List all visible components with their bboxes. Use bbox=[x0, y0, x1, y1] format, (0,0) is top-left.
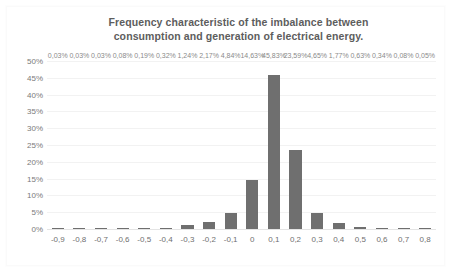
x-axis-tick-label: -0,5 bbox=[133, 235, 155, 244]
x-axis-tick-label: 0,2 bbox=[285, 235, 307, 244]
bar[interactable]: 4,65% bbox=[311, 213, 323, 229]
y-axis-tick-label: 45% bbox=[9, 73, 43, 82]
bar[interactable]: 0,63% bbox=[354, 227, 366, 229]
bar[interactable]: 0,03% bbox=[95, 228, 107, 229]
bar-data-label: 0,34% bbox=[372, 52, 392, 60]
bar-slot: 4,65% bbox=[306, 61, 328, 229]
bar-slot: 45,83% bbox=[263, 61, 285, 229]
bar-data-label: 0,08% bbox=[113, 52, 133, 60]
bar-slot: 0,08% bbox=[393, 61, 415, 229]
y-axis-tick-label: 40% bbox=[9, 90, 43, 99]
bar-data-label: 4,84% bbox=[221, 52, 241, 60]
y-axis-tick-label: 0% bbox=[9, 225, 43, 234]
x-axis-tick-label: -0,6 bbox=[112, 235, 134, 244]
bar[interactable]: 1,24% bbox=[181, 225, 193, 229]
bar-slot: 0,08% bbox=[112, 61, 134, 229]
x-axis-tick-label: 0,8 bbox=[414, 235, 436, 244]
bar-slot: 0,34% bbox=[371, 61, 393, 229]
x-axis-tick-label: -0,7 bbox=[90, 235, 112, 244]
x-axis: -0,9-0,8-0,7-0,6-0,5-0,4-0,3-0,2-0,100,1… bbox=[47, 235, 436, 244]
bar-slot: 0,03% bbox=[90, 61, 112, 229]
bar[interactable]: 45,83% bbox=[268, 75, 280, 229]
bar-data-label: 0,32% bbox=[156, 52, 176, 60]
x-axis-tick-label: -0,3 bbox=[177, 235, 199, 244]
bar-series: 0,03%0,03%0,03%0,08%0,19%0,32%1,24%2,17%… bbox=[47, 61, 436, 229]
x-axis-tick-label: 0,6 bbox=[371, 235, 393, 244]
bar-data-label: 0,63% bbox=[350, 52, 370, 60]
x-axis-tick-label: -0,1 bbox=[220, 235, 242, 244]
y-axis-tick-label: 25% bbox=[9, 141, 43, 150]
x-axis-tick-label: -0,9 bbox=[47, 235, 69, 244]
bar-data-label: 0,05% bbox=[415, 52, 435, 60]
bar-data-label: 23,59% bbox=[284, 52, 308, 60]
y-axis-tick-label: 15% bbox=[9, 174, 43, 183]
x-axis-tick-label: 0,4 bbox=[328, 235, 350, 244]
bar[interactable]: 0,19% bbox=[138, 228, 150, 229]
x-axis-tick-label: -0,8 bbox=[69, 235, 91, 244]
bar[interactable]: 2,17% bbox=[203, 222, 215, 229]
bar-data-label: 0,08% bbox=[394, 52, 414, 60]
bar-data-label: 4,65% bbox=[307, 52, 327, 60]
bar-slot: 14,63% bbox=[241, 61, 263, 229]
bar[interactable]: 14,63% bbox=[246, 180, 258, 229]
bar-data-label: 45,83% bbox=[262, 52, 286, 60]
bar-data-label: 0,19% bbox=[134, 52, 154, 60]
bar-slot: 4,84% bbox=[220, 61, 242, 229]
bar-data-label: 1,77% bbox=[329, 52, 349, 60]
bar[interactable]: 0,08% bbox=[117, 228, 129, 229]
y-axis-tick-label: 5% bbox=[9, 208, 43, 217]
bar-slot: 1,24% bbox=[177, 61, 199, 229]
bar[interactable]: 0,08% bbox=[398, 228, 410, 229]
bar[interactable]: 0,03% bbox=[52, 228, 64, 229]
bar-data-label: 1,24% bbox=[178, 52, 198, 60]
y-axis-tick-label: 20% bbox=[9, 157, 43, 166]
bar-data-label: 14,63% bbox=[240, 52, 264, 60]
bar-data-label: 0,03% bbox=[91, 52, 111, 60]
bar-slot: 0,03% bbox=[69, 61, 91, 229]
plot-wrapper: 0%5%10%15%20%25%30%35%40%45%50% 0,03%0,0… bbox=[7, 7, 444, 265]
gridline bbox=[47, 229, 436, 230]
bar-data-label: 2,17% bbox=[199, 52, 219, 60]
bar[interactable]: 4,84% bbox=[225, 213, 237, 229]
y-axis-tick-label: 10% bbox=[9, 191, 43, 200]
bar-slot: 0,03% bbox=[47, 61, 69, 229]
x-axis-tick-label: 0,5 bbox=[350, 235, 372, 244]
x-axis-tick-label: 0,7 bbox=[393, 235, 415, 244]
bar-slot: 0,19% bbox=[133, 61, 155, 229]
x-axis-tick-label: -0,2 bbox=[198, 235, 220, 244]
bar[interactable]: 0,32% bbox=[160, 228, 172, 229]
bar[interactable]: 0,05% bbox=[419, 228, 431, 229]
bar-slot: 1,77% bbox=[328, 61, 350, 229]
y-axis: 0%5%10%15%20%25%30%35%40%45%50% bbox=[7, 61, 43, 229]
bar[interactable]: 23,59% bbox=[289, 150, 301, 229]
x-axis-tick-label: 0 bbox=[241, 235, 263, 244]
bar[interactable]: 0,34% bbox=[376, 228, 388, 229]
x-axis-tick-label: 0,1 bbox=[263, 235, 285, 244]
bar-slot: 0,05% bbox=[414, 61, 436, 229]
bar-slot: 0,32% bbox=[155, 61, 177, 229]
bar[interactable]: 1,77% bbox=[333, 223, 345, 229]
x-axis-tick-label: 0,3 bbox=[306, 235, 328, 244]
bar-data-label: 0,03% bbox=[48, 52, 68, 60]
bar[interactable]: 0,03% bbox=[73, 228, 85, 229]
chart-container: Frequency characteristic of the imbalanc… bbox=[0, 0, 451, 272]
chart-plate: Frequency characteristic of the imbalanc… bbox=[6, 6, 445, 266]
bar-data-label: 0,03% bbox=[69, 52, 89, 60]
y-axis-tick-label: 50% bbox=[9, 57, 43, 66]
bar-slot: 0,63% bbox=[350, 61, 372, 229]
bar-slot: 2,17% bbox=[198, 61, 220, 229]
plot-area: 0,03%0,03%0,03%0,08%0,19%0,32%1,24%2,17%… bbox=[47, 61, 436, 229]
y-axis-tick-label: 30% bbox=[9, 124, 43, 133]
bar-slot: 23,59% bbox=[285, 61, 307, 229]
y-axis-tick-label: 35% bbox=[9, 107, 43, 116]
x-axis-tick-label: -0,4 bbox=[155, 235, 177, 244]
